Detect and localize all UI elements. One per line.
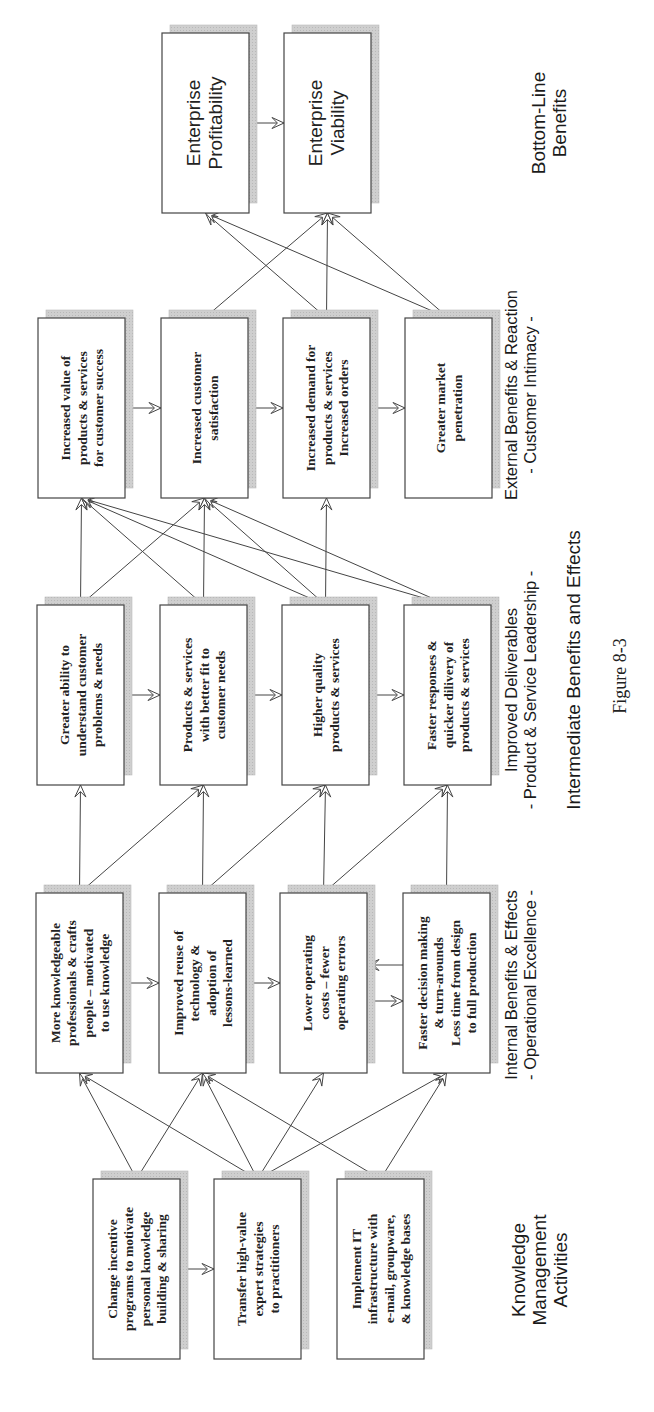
connector-line — [137, 1073, 203, 1179]
arrowhead-icon — [312, 1073, 323, 1086]
box-label-line: products & services — [320, 351, 335, 465]
box-label-line: building & sharing — [154, 1214, 169, 1324]
arrow-int2-to-imp2 — [198, 785, 209, 893]
arrow-km1-to-int1 — [80, 1073, 137, 1179]
label-internal-benefits-line: Internal Benefits & Effects — [502, 890, 520, 1080]
box-label-line: Enterprise — [183, 80, 204, 167]
box-ext2: Increased customersatisfaction — [161, 310, 256, 498]
box-label-line: Faster decision making — [415, 916, 430, 1050]
label-improved-deliverables: Improved Deliverables- Product & Service… — [502, 571, 539, 809]
box-label-line: problems & needs — [90, 643, 105, 747]
connector-line — [80, 1073, 137, 1179]
box-label: EnterpriseViability — [305, 80, 348, 167]
box-label: Increased value ofproducts & servicesfor… — [58, 349, 106, 467]
box-label: EnterpriseProfitability — [183, 76, 226, 169]
box-label: Faster decision making& turn-aroundsLess… — [415, 916, 480, 1050]
connector-line — [447, 785, 448, 893]
connector-line — [328, 213, 449, 318]
box-label-line: Higher quality — [310, 653, 325, 737]
box-label-line: quicker dilivery of — [441, 641, 456, 748]
arrow-int3-to-imp4 — [324, 785, 448, 893]
box-label-line: & knowledge bases — [398, 1214, 413, 1324]
box-label-line: Transfer high-value — [234, 1212, 249, 1326]
box-label-line: personal knowledge — [138, 1212, 153, 1326]
box-label: Products & serviceswith better fit tocus… — [180, 638, 228, 752]
box-imp2: Products & serviceswith better fit tocus… — [160, 597, 255, 785]
box-label-line: More knowledgeable — [48, 923, 63, 1043]
connector-line — [258, 1073, 324, 1179]
arrow-km3-to-int2 — [203, 1073, 381, 1179]
box-label-line: people – motivated — [81, 928, 96, 1037]
connector-line — [80, 785, 81, 893]
box-label-line: for customer success — [91, 349, 106, 467]
label-improved-deliverables-line: Improved Deliverables — [502, 608, 520, 772]
box-frame — [282, 605, 369, 785]
box-label: Increased demand forproducts & servicesI… — [303, 345, 351, 472]
box-label-line: technology & — [187, 945, 202, 1022]
diagram-boxes: Change incentiveprograms to motivatepers… — [36, 25, 500, 1359]
connector-line — [324, 785, 326, 893]
box-int4: Faster decision making& turn-aroundsLess… — [403, 885, 498, 1073]
label-external-benefits: External Benefits & Reaction- Customer I… — [502, 290, 539, 500]
label-bottom-line-line: Benefits — [549, 89, 570, 158]
arrow-imp1-to-ext1 — [76, 498, 87, 605]
connector-line — [258, 1073, 447, 1179]
box-bot1: EnterpriseProfitability — [162, 25, 257, 213]
box-label: Lower operatingcosts – feweroperating er… — [300, 935, 348, 1031]
box-label: Transfer high-valueexpert strategiesto p… — [234, 1212, 282, 1326]
box-imp4: Faster responses &quicker dilivery ofpro… — [404, 597, 499, 785]
figure-caption-line: Figure 8-3 — [610, 638, 630, 714]
box-label: More knowledgeableprofessionals & crafts… — [48, 920, 113, 1046]
label-bottom-line-line: Bottom-Line — [528, 72, 549, 174]
arrow-int2-to-imp3 — [203, 785, 326, 893]
box-frame — [161, 318, 248, 498]
connector-line — [324, 785, 448, 893]
arrow-int4-to-imp4 — [442, 785, 453, 893]
connector-line — [80, 1073, 258, 1179]
box-label-line: satisfaction — [206, 375, 221, 441]
box-label-line: penetration — [450, 374, 465, 441]
connector-line — [81, 498, 82, 605]
label-external-benefits-line: - Customer Intimacy - — [521, 316, 539, 474]
arrow-km1-to-int2 — [137, 1073, 203, 1179]
connector-line — [82, 498, 448, 605]
box-ext3: Increased demand forproducts & servicesI… — [283, 310, 378, 498]
box-label-line: costs – fewer — [317, 946, 332, 1019]
box-imp1: Greater ability tounderstand customerpro… — [37, 597, 132, 785]
arrow-km2-to-int3 — [258, 1073, 324, 1179]
box-label: Faster responses &quicker dilivery ofpro… — [424, 638, 472, 752]
label-internal-benefits: Internal Benefits & Effects- Operational… — [502, 890, 539, 1080]
box-label-line: infrastructure with — [365, 1213, 380, 1324]
box-label: Higher qualityproducts & services — [310, 638, 342, 752]
box-label-line: & turn-arounds — [431, 937, 446, 1029]
label-km-activities-line: Management — [529, 1214, 550, 1326]
box-ext4: Greater marketpenetration — [405, 310, 500, 498]
box-label-line: Improved reuse of — [171, 930, 186, 1036]
box-label: Implement ITinfrastructure withe-mail, g… — [349, 1213, 414, 1324]
arrow-int1-to-imp1 — [75, 785, 86, 893]
box-label-line: to practitioners — [267, 1225, 282, 1314]
connector-line — [203, 1073, 381, 1179]
box-label-line: Change incentive — [105, 1219, 120, 1318]
box-label-line: customer needs — [213, 651, 228, 740]
box-label: Greater ability tounderstand customerpro… — [57, 634, 105, 757]
box-label-line: Profitability — [205, 76, 226, 169]
box-label-line: Increased demand for — [303, 345, 318, 472]
box-imp3: Higher qualityproducts & services — [282, 597, 377, 785]
box-label-line: products & services — [327, 638, 342, 752]
box-label-line: Enterprise — [305, 80, 326, 167]
box-label-line: to full production — [464, 932, 479, 1034]
arrow-int3-to-imp3 — [320, 785, 331, 893]
box-label-line: Implement IT — [349, 1229, 364, 1310]
label-internal-benefits-line: - Operational Excellence - — [521, 890, 539, 1080]
box-label-line: Faster responses & — [424, 640, 439, 750]
box-label-line: programs to motivate — [121, 1207, 136, 1331]
box-int3: Lower operatingcosts – feweroperating er… — [280, 885, 375, 1073]
box-label-line: Increased customer — [189, 352, 204, 465]
label-bottom-line: Bottom-LineBenefits — [528, 72, 570, 174]
box-label-line: operating errors — [333, 936, 348, 1031]
box-frame — [405, 318, 492, 498]
arrow-ext4-to-bot2 — [328, 213, 449, 318]
arrow-int1-to-imp2 — [80, 785, 204, 893]
box-label-line: lessons-learned — [220, 939, 235, 1027]
